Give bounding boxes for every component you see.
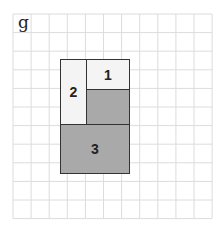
piece-3: 3 bbox=[60, 124, 130, 174]
piece-label: 3 bbox=[91, 141, 99, 157]
piece-label: 2 bbox=[70, 84, 78, 100]
piece-2: 2 bbox=[60, 59, 87, 125]
piece-1-shaded bbox=[86, 89, 130, 125]
panel-label: g bbox=[18, 14, 29, 31]
piece-label: 1 bbox=[104, 67, 112, 83]
piece-1: 1 bbox=[86, 59, 130, 90]
